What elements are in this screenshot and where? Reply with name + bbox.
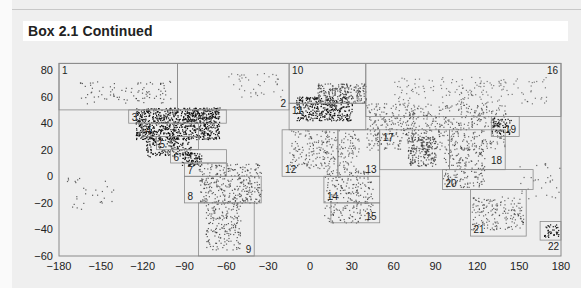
region-label: 6 <box>174 152 180 163</box>
region-label: 12 <box>285 164 297 175</box>
region-label: 11 <box>292 105 303 116</box>
y-tick-label: 60 <box>41 91 53 103</box>
region-label: 15 <box>366 211 378 222</box>
x-tick-label: 30 <box>346 260 358 272</box>
y-tick-label: 20 <box>41 144 53 156</box>
x-tick-label: −30 <box>259 260 278 272</box>
region-label: 8 <box>188 191 194 202</box>
world-station-map-chart: 1234567891011121314151617181920212280604… <box>0 0 581 288</box>
region-label: 21 <box>473 224 485 235</box>
region-label: 20 <box>446 178 458 189</box>
x-tick-label: 90 <box>429 260 441 272</box>
x-tick-label: −180 <box>47 260 72 272</box>
y-tick-label: −20 <box>34 197 53 209</box>
y-tick-label: 0 <box>47 170 53 182</box>
region-label: 14 <box>327 191 339 202</box>
region-label: 18 <box>491 155 503 166</box>
x-tick-label: −60 <box>217 260 236 272</box>
y-tick-label: 40 <box>41 117 53 129</box>
x-tick-label: 60 <box>388 260 400 272</box>
region-label: 7 <box>188 165 194 176</box>
region-label: 17 <box>383 132 395 143</box>
y-tick-label: −40 <box>34 223 53 235</box>
x-tick-label: −90 <box>175 260 194 272</box>
region-label: 13 <box>366 164 378 175</box>
region-label: 2 <box>281 98 287 109</box>
region-label: 5 <box>160 139 166 150</box>
region-label: 3 <box>132 112 138 123</box>
x-tick-label: 180 <box>552 260 570 272</box>
region-label: 22 <box>548 241 560 252</box>
region-label: 4 <box>146 125 152 136</box>
x-tick-label: 120 <box>468 260 486 272</box>
x-tick-label: 150 <box>510 260 528 272</box>
x-tick-label: −150 <box>88 260 113 272</box>
x-tick-label: −120 <box>130 260 155 272</box>
y-tick-label: 80 <box>41 64 53 76</box>
region-label: 9 <box>246 244 252 255</box>
region-label: 1 <box>62 65 68 76</box>
region-label: 16 <box>547 65 559 76</box>
region-label: 19 <box>505 124 517 135</box>
region-label: 10 <box>292 65 304 76</box>
x-tick-label: 0 <box>307 260 313 272</box>
